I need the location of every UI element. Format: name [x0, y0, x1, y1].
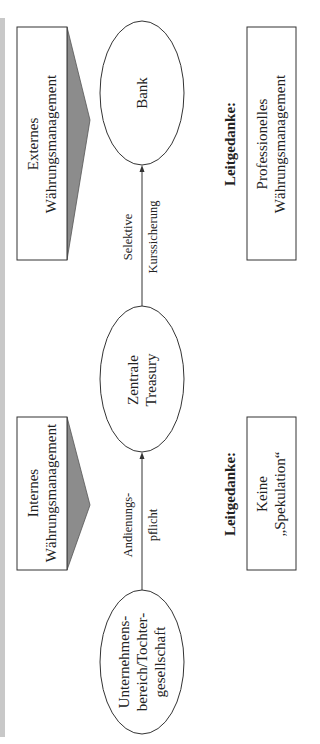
edge-label-treasury-bank: Selektive Kurssicherung: [121, 182, 161, 292]
internal-scope-label: Internes Währungsmanagement: [22, 417, 62, 569]
subsidiary-label: Unternehmens- bereich/Tochter- gesellsch…: [114, 602, 170, 722]
external-principle-line2: Währungsmanagement: [271, 75, 289, 213]
edge-label-line2: pflicht: [146, 509, 161, 542]
external-principle-label: Professionelles Währungsmanagement: [251, 28, 291, 260]
bank-label: Bank: [132, 43, 152, 143]
external-scope-line1: Externes: [24, 118, 42, 170]
internal-scope-line2: Währungsmanagement: [42, 424, 60, 562]
treasury-line1: Zentrale: [124, 355, 142, 405]
bank-text: Bank: [133, 77, 151, 109]
edge-label-line2: Kurssicherung: [146, 201, 161, 274]
subsidiary-line3: gesellschaft: [151, 627, 169, 698]
external-scope-line2: Währungsmanagement: [42, 75, 60, 213]
internal-principle-line2: „Spekulation“: [271, 452, 289, 537]
heading-text: Leitgedanke:: [221, 102, 239, 186]
internal-arrow-shape: [67, 417, 90, 570]
internal-principle-line1: Keine: [253, 476, 271, 512]
internal-scope-line1: Internes: [24, 469, 42, 517]
subsidiary-line1: Unternehmens-: [115, 616, 133, 708]
arrowhead-treasury: [140, 452, 145, 459]
treasury-line2: Treasury: [142, 354, 160, 407]
internal-principle-heading: Leitgedanke:: [220, 444, 240, 544]
edge-label-line1: Andienungs-: [121, 493, 136, 558]
heading-text: Leitgedanke:: [221, 452, 239, 536]
external-principle-line1: Professionelles: [253, 99, 271, 190]
external-principle-heading: Leitgedanke:: [220, 94, 240, 194]
treasury-label: Zentrale Treasury: [123, 330, 161, 430]
external-arrow-shape: [67, 27, 90, 260]
edge-label-line1: Selektive: [121, 214, 136, 261]
arrowhead-bank: [140, 165, 145, 172]
edge-label-subsidiary-treasury: Andienungs- pflicht: [121, 470, 161, 580]
internal-principle-label: Keine „Spekulation“: [251, 418, 291, 570]
subsidiary-line2: bereich/Tochter-: [133, 613, 151, 712]
external-scope-label: Externes Währungsmanagement: [22, 28, 62, 260]
